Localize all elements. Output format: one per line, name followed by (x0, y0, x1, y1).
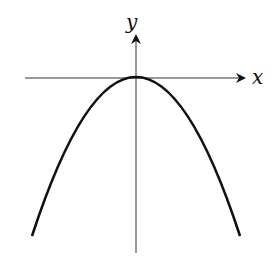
parabola-diagram: x y (0, 0, 276, 263)
x-axis-label: x (252, 65, 263, 89)
y-axis-label: y (125, 10, 138, 34)
